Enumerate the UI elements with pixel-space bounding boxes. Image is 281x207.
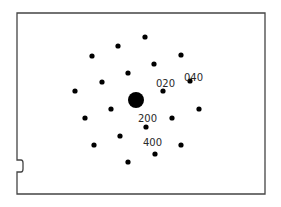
label-200: 200 <box>138 113 157 124</box>
diffraction-spot <box>72 88 77 93</box>
spot-labels: 020 040 200 400 <box>138 72 203 148</box>
diffraction-spot <box>143 124 148 129</box>
diffraction-spot <box>152 151 157 156</box>
diffraction-spot <box>196 106 201 111</box>
diffraction-spot <box>178 142 183 147</box>
diffraction-spot <box>125 70 130 75</box>
diffraction-pattern-diagram: 020 040 200 400 <box>0 0 281 207</box>
diffraction-spot <box>91 142 96 147</box>
diffraction-spot <box>142 34 147 39</box>
diffraction-spot <box>169 115 174 120</box>
diffraction-spot <box>178 52 183 57</box>
label-040: 040 <box>184 72 203 83</box>
diffraction-spot <box>89 53 94 58</box>
label-020: 020 <box>156 78 175 89</box>
diffraction-spot <box>99 79 104 84</box>
diffraction-spot <box>82 115 87 120</box>
diffraction-spot <box>115 43 120 48</box>
diffraction-spot <box>117 133 122 138</box>
label-400: 400 <box>143 137 162 148</box>
diffraction-spot <box>151 61 156 66</box>
diffraction-spot <box>160 88 165 93</box>
diffraction-spot <box>125 159 130 164</box>
diffraction-spot <box>108 106 113 111</box>
central-beam-spot <box>128 92 144 108</box>
